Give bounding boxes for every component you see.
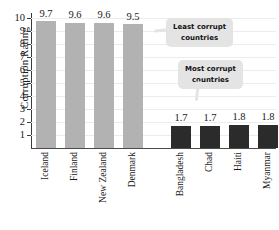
x-tick-label: Finland <box>70 152 80 181</box>
callout-most-corrupt: Most corruptcountries <box>178 60 243 89</box>
bar: 1.7Bangladesh <box>171 126 191 148</box>
y-tick-label: 2 <box>20 117 25 128</box>
y-tick-label: 4 <box>20 91 25 102</box>
y-tick-mark <box>27 96 31 97</box>
y-tick-mark <box>27 70 31 71</box>
y-tick-label: 9 <box>20 25 25 36</box>
x-tick-label: New Zealand <box>99 152 109 203</box>
x-tick-label: Bangladesh <box>176 152 186 196</box>
bar-value-label: 1.7 <box>203 113 216 124</box>
bar-value-label: 1.8 <box>232 112 245 123</box>
y-tick-mark <box>27 109 31 110</box>
y-tick-mark <box>27 31 31 32</box>
x-axis-line <box>31 148 276 149</box>
y-tick-label: 7 <box>20 51 25 62</box>
callout-least-corrupt: Least corruptcountries <box>166 18 233 47</box>
bar: 9.6Finland <box>65 23 85 148</box>
y-tick-mark <box>27 122 31 123</box>
bar: 9.5Denmark <box>123 24 143 148</box>
y-tick-mark <box>27 135 31 136</box>
y-tick-label: 3 <box>20 104 25 115</box>
bar-value-label: 9.7 <box>39 9 52 20</box>
callout-line-2: countries <box>173 33 226 44</box>
x-tick-label: Myanmar <box>263 152 273 189</box>
x-tick-label: Chad <box>205 152 215 172</box>
y-tick-mark <box>27 57 31 58</box>
bar: 1.7Chad <box>200 126 220 148</box>
x-tick-label: Haiti <box>234 152 244 171</box>
bar-value-label: 9.6 <box>68 10 81 21</box>
y-tick-label: 6 <box>20 64 25 75</box>
bar-value-label: 1.7 <box>174 113 187 124</box>
bar-value-label: 9.6 <box>97 10 110 21</box>
callout-line-2: countries <box>185 75 236 86</box>
bar: 9.6New Zealand <box>94 23 114 148</box>
bar: 1.8Haiti <box>229 125 249 148</box>
y-tick-mark <box>27 18 31 19</box>
x-tick-label: Denmark <box>128 152 138 187</box>
x-tick-label: Iceland <box>41 152 51 180</box>
bar-chart: Corruption Rating 10987654321 9.7Iceland… <box>0 0 279 230</box>
bar: 9.7Iceland <box>36 21 56 148</box>
y-tick-mark <box>27 44 31 45</box>
callout-line-1: Least corrupt <box>173 22 226 33</box>
callout-line-1: Most corrupt <box>185 64 236 75</box>
bar-value-label: 9.5 <box>126 12 139 23</box>
bar-value-label: 1.8 <box>261 112 274 123</box>
y-tick-label: 10 <box>15 12 26 23</box>
y-tick-label: 5 <box>20 78 25 89</box>
y-tick-label: 1 <box>20 130 25 141</box>
y-tick-label: 8 <box>20 38 25 49</box>
y-tick-mark <box>27 83 31 84</box>
bar: 1.8Myanmar <box>258 125 278 148</box>
